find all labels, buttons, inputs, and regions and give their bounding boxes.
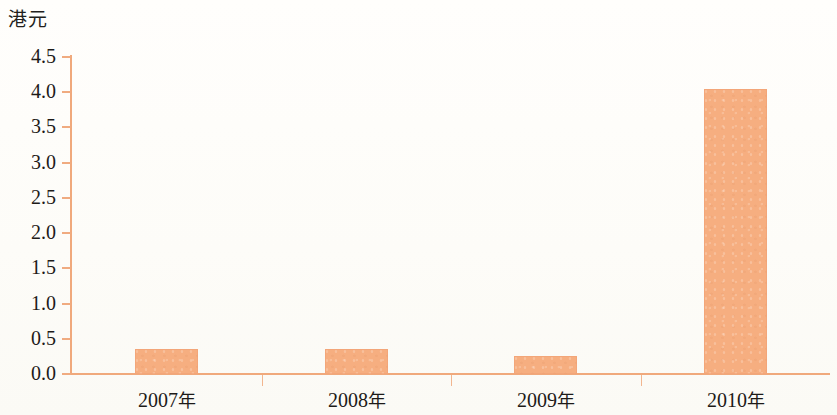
- y-axis-tick-label: 3.0: [8, 152, 56, 172]
- y-axis-tick-label: 2.5: [8, 187, 56, 207]
- x-axis-label: 2008年: [262, 386, 452, 412]
- y-axis-unit-label: 港元: [8, 4, 47, 31]
- bar: [325, 349, 388, 374]
- y-axis-tick-label: 0.5: [8, 328, 56, 348]
- x-axis-label: 2010年: [641, 386, 831, 412]
- y-axis-line: [70, 55, 72, 375]
- y-axis-tick: [62, 373, 71, 375]
- y-axis-tick: [62, 91, 71, 93]
- y-axis-tick: [62, 197, 71, 199]
- y-axis-tick: [62, 162, 71, 164]
- bar-chart: 港元 0.00.51.01.52.02.53.03.54.04.5 2007年2…: [0, 0, 837, 415]
- y-axis-tick-label: 2.0: [8, 222, 56, 242]
- y-axis-tick-label: 4.5: [8, 46, 56, 66]
- bar: [135, 349, 198, 374]
- y-axis-tick-label: 3.5: [8, 116, 56, 136]
- x-axis-separator: [451, 375, 452, 386]
- x-axis-separator: [262, 375, 263, 386]
- y-axis-tick: [62, 338, 71, 340]
- y-axis-tick-label: 0.0: [8, 363, 56, 383]
- y-axis-tick: [62, 126, 71, 128]
- y-axis-tick-label: 1.5: [8, 257, 56, 277]
- x-axis-separator: [641, 375, 642, 386]
- y-axis-tick-label: 4.0: [8, 81, 56, 101]
- x-axis-label: 2009年: [451, 386, 641, 412]
- y-axis-tick: [62, 56, 71, 58]
- y-axis-tick: [62, 303, 71, 305]
- y-axis-tick: [62, 267, 71, 269]
- y-axis-tick: [62, 232, 71, 234]
- bar: [514, 356, 577, 374]
- x-axis-label: 2007年: [72, 386, 262, 412]
- bar: [704, 89, 767, 374]
- y-axis-tick-label: 1.0: [8, 293, 56, 313]
